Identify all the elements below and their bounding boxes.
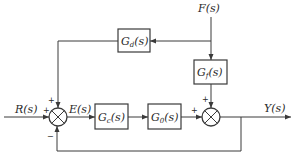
arrow-icon: [150, 39, 156, 44]
signal-label-e: E(s): [68, 103, 91, 116]
arrow-icon: [142, 115, 148, 120]
svg-text:G0(s): G0(s): [151, 111, 179, 125]
feedforward-line: [58, 41, 118, 108]
block-diagram: F(s) Gd(s) Gf(s) R(s) + + − E(s): [0, 0, 301, 161]
arrow-icon: [196, 115, 202, 120]
block-gd: Gd(s): [118, 29, 150, 52]
signal-label-r: R(s): [14, 103, 38, 116]
sign-plus: +: [48, 96, 55, 105]
arrow-icon: [55, 126, 60, 132]
svg-text:Gc(s): Gc(s): [98, 111, 125, 125]
block-gf: Gf(s): [194, 60, 227, 84]
summing-junction-right: [202, 108, 220, 126]
sign-plus: +: [191, 106, 198, 115]
sign-plus: +: [43, 106, 50, 115]
block-gc: Gc(s): [95, 104, 128, 129]
arrow-icon: [56, 102, 61, 108]
arrow-icon: [209, 102, 214, 108]
summing-junction-left: [49, 108, 67, 126]
arrow-icon: [209, 54, 214, 60]
arrow-icon: [285, 115, 291, 120]
signal-label-f: F(s): [197, 2, 220, 15]
svg-text:Gf(s): Gf(s): [197, 66, 223, 80]
arrow-icon: [89, 115, 95, 120]
svg-text:Gd(s): Gd(s): [121, 35, 149, 49]
sign-plus: +: [202, 95, 209, 104]
block-g0: G0(s): [148, 104, 181, 129]
arrow-icon: [43, 115, 49, 120]
sign-minus: −: [47, 132, 54, 141]
signal-label-y: Y(s): [264, 102, 286, 115]
